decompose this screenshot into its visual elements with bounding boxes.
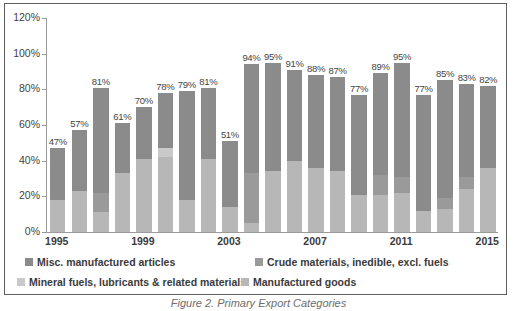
bar-value-label: 81%	[199, 76, 217, 87]
bar-segment	[93, 88, 108, 193]
bar-2002[interactable]: 81%	[201, 88, 216, 232]
y-axis-tick-label: 60%	[6, 118, 40, 130]
legend-item[interactable]: Misc. manufactured articles	[25, 256, 175, 268]
bar-2013[interactable]: 85%	[437, 80, 452, 232]
bar-segment	[480, 86, 495, 168]
bar-segment	[179, 91, 194, 200]
bar-segment	[115, 123, 130, 173]
bar-2003[interactable]: 51%	[222, 141, 237, 232]
bar-value-label: 88%	[307, 63, 325, 74]
bar-segment	[136, 107, 151, 159]
bar-segment	[136, 159, 151, 232]
bar-2009[interactable]: 77%	[351, 95, 366, 232]
chart-figure: 0%20%40%60%80%100%120% 47%57%81%61%70%78…	[0, 0, 517, 311]
y-axis-tick	[42, 89, 46, 90]
bar-segment	[222, 141, 237, 207]
legend-item[interactable]: Mineral fuels, lubricants & related mate…	[17, 276, 246, 288]
bar-segment	[244, 173, 259, 223]
bar-segment	[373, 195, 388, 232]
bar-2004[interactable]: 94%	[244, 64, 259, 232]
legend-label: Misc. manufactured articles	[37, 256, 175, 268]
legend-item[interactable]: Manufactured goods	[241, 276, 356, 288]
bar-value-label: 95%	[393, 51, 411, 62]
bar-segment	[437, 80, 452, 198]
bar-value-label: 81%	[92, 76, 110, 87]
bar-2007[interactable]: 88%	[308, 75, 323, 232]
bar-1997[interactable]: 81%	[93, 88, 108, 232]
y-axis-tick	[42, 18, 46, 19]
bar-1996[interactable]: 57%	[72, 130, 87, 232]
legend-swatch-icon	[255, 258, 263, 266]
y-axis-tick-label: 20%	[6, 189, 40, 201]
x-axis-line	[46, 232, 498, 233]
bar-2000[interactable]: 78%	[158, 93, 173, 232]
y-axis-tick-label: 40%	[6, 154, 40, 166]
bar-value-label: 79%	[178, 79, 196, 90]
y-axis-tick-label: 0%	[6, 225, 40, 237]
bar-2011[interactable]: 95%	[394, 63, 409, 232]
x-axis-label-2007: 2007	[303, 235, 326, 247]
x-axis-label-2015: 2015	[476, 235, 499, 247]
legend-swatch-icon	[17, 278, 25, 286]
chart-frame: 0%20%40%60%80%100%120% 47%57%81%61%70%78…	[4, 3, 507, 295]
bar-segment	[416, 95, 431, 211]
plot-area: 47%57%81%61%70%78%79%81%51%94%95%91%88%8…	[46, 18, 498, 233]
x-axis-label-2003: 2003	[217, 235, 240, 247]
legend-label: Crude materials, inedible, excl. fuels	[267, 256, 448, 268]
bar-value-label: 51%	[221, 129, 239, 140]
bar-1995[interactable]: 47%	[50, 148, 65, 232]
bar-segment	[330, 77, 345, 172]
bar-segment	[222, 207, 237, 232]
bar-segment	[416, 211, 431, 232]
bar-2005[interactable]: 95%	[265, 63, 280, 232]
bar-value-label: 85%	[436, 68, 454, 79]
bar-segment	[373, 73, 388, 175]
bar-segment	[93, 193, 108, 213]
bar-segment	[330, 171, 345, 232]
bar-value-label: 77%	[350, 83, 368, 94]
x-axis-tick-labels: 199519992003200720112015	[46, 235, 498, 251]
bar-segment	[394, 63, 409, 177]
bar-value-label: 83%	[458, 72, 476, 83]
bar-value-label: 89%	[372, 61, 390, 72]
bar-1998[interactable]: 61%	[115, 123, 130, 232]
bar-value-label: 91%	[285, 58, 303, 69]
bar-segment	[244, 223, 259, 232]
x-axis-label-1995: 1995	[45, 235, 68, 247]
bar-segment	[93, 212, 108, 232]
bar-value-label: 77%	[415, 83, 433, 94]
bar-segment	[201, 159, 216, 232]
bar-2001[interactable]: 79%	[179, 91, 194, 232]
bar-value-label: 94%	[242, 52, 260, 63]
bar-segment	[72, 130, 87, 191]
bar-value-label: 87%	[328, 65, 346, 76]
bar-segment	[158, 148, 173, 157]
legend-label: Manufactured goods	[253, 276, 356, 288]
bar-1999[interactable]: 70%	[136, 107, 151, 232]
y-axis-tick	[42, 125, 46, 126]
y-axis-tick	[42, 161, 46, 162]
bar-series-group: 47%57%81%61%70%78%79%81%51%94%95%91%88%8…	[47, 18, 498, 232]
bar-2006[interactable]: 91%	[287, 70, 302, 232]
bar-segment	[437, 198, 452, 209]
y-axis-tick-label: 100%	[6, 47, 40, 59]
bar-segment	[50, 200, 65, 232]
bar-2014[interactable]: 83%	[459, 84, 474, 232]
bar-value-label: 95%	[264, 51, 282, 62]
bar-2008[interactable]: 87%	[330, 77, 345, 232]
y-axis-tick-label: 120%	[6, 11, 40, 23]
bar-segment	[308, 75, 323, 168]
bar-segment	[201, 88, 216, 159]
bar-2012[interactable]: 77%	[416, 95, 431, 232]
bar-value-label: 57%	[70, 118, 88, 129]
legend-label: Mineral fuels, lubricants & related mate…	[29, 276, 246, 288]
bar-value-label: 78%	[156, 81, 174, 92]
bar-2010[interactable]: 89%	[373, 73, 388, 232]
bar-2015[interactable]: 82%	[480, 86, 495, 232]
bar-segment	[179, 200, 194, 232]
bar-segment	[373, 175, 388, 195]
bar-segment	[287, 161, 302, 232]
legend-item[interactable]: Crude materials, inedible, excl. fuels	[255, 256, 448, 268]
bar-segment	[308, 168, 323, 232]
y-axis-tick	[42, 196, 46, 197]
